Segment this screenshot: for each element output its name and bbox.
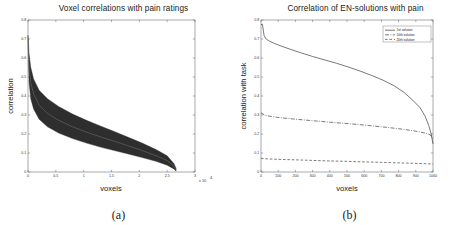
x-tick-label: 500	[344, 174, 350, 178]
x-tick-label: 200	[292, 174, 298, 178]
legend-label-3: 20th solution	[397, 38, 415, 42]
y-tick-label: 0.2	[21, 132, 26, 136]
x-tick-label: 0	[27, 174, 29, 178]
y-tick-label: 0.6	[254, 56, 259, 60]
x-tick-label: 300	[310, 174, 316, 178]
y-tick-label: 0.7	[21, 37, 26, 41]
y-tick-label: 0.1	[21, 151, 26, 155]
y-tick-label: 0.5	[254, 75, 259, 79]
chart-a-ylabel: correlation	[6, 78, 15, 113]
x-tick-label: 100	[275, 174, 281, 178]
x-tick-label: 0	[260, 174, 262, 178]
x-tick-label: 800	[396, 174, 402, 178]
x-tick-label: 2.5	[165, 174, 170, 178]
y-tick-label: 0.3	[21, 113, 26, 117]
chart-b-xlabel: voxels	[336, 184, 358, 193]
x-tick-label: 900	[413, 174, 419, 178]
x-tick-label: 1	[83, 174, 85, 178]
x-tick-label: 1.5	[109, 174, 114, 178]
chart-b-legend: 1st solution10th solution20th solution	[383, 26, 431, 42]
y-tick-label: 0	[24, 170, 26, 174]
y-tick-label: 0.7	[254, 37, 259, 41]
y-tick-label: 0.4	[254, 94, 259, 98]
y-tick-label: 0.4	[21, 94, 26, 98]
chart-b-ylabel: correlation with task	[239, 62, 248, 129]
y-tick-label: 0.1	[254, 151, 259, 155]
chart-b-axes	[261, 20, 433, 172]
legend-label-2: 10th solution	[397, 33, 415, 37]
y-tick-label: 0.8	[254, 18, 259, 22]
y-tick-label: 0.3	[254, 113, 259, 117]
x-tick-label: 1000	[429, 174, 437, 178]
chart-a-x-exponent-power: 4	[210, 176, 212, 180]
chart-b-plot: 0100200300400500600700800900100000.10.20…	[233, 0, 466, 225]
x-tick-label: 2	[138, 174, 140, 178]
x-tick-label: 600	[361, 174, 367, 178]
y-tick-label: 0	[257, 170, 259, 174]
chart-a-plot: 00.511.522.5300.10.20.30.40.50.60.70.8 v…	[0, 0, 233, 225]
x-tick-label: 0.5	[53, 174, 58, 178]
figure-row: Voxel correlations with pain ratings 00.…	[0, 0, 466, 225]
legend-label-1: 1st solution	[397, 28, 413, 32]
y-tick-label: 0.6	[21, 56, 26, 60]
y-tick-label: 0.2	[254, 132, 259, 136]
x-tick-label: 3	[194, 174, 196, 178]
y-tick-label: 0.8	[21, 18, 26, 22]
caption-a: (a)	[0, 208, 233, 223]
chart-a-x-exponent: x 10	[199, 179, 206, 183]
caption-b: (b)	[233, 208, 466, 223]
x-tick-label: 400	[327, 174, 333, 178]
y-tick-label: 0.5	[21, 75, 26, 79]
panel-b: Correlation of EN-solutions with pain 01…	[233, 0, 466, 225]
panel-a: Voxel correlations with pain ratings 00.…	[0, 0, 233, 225]
x-tick-label: 700	[378, 174, 384, 178]
chart-a-xlabel: voxels	[100, 184, 122, 193]
